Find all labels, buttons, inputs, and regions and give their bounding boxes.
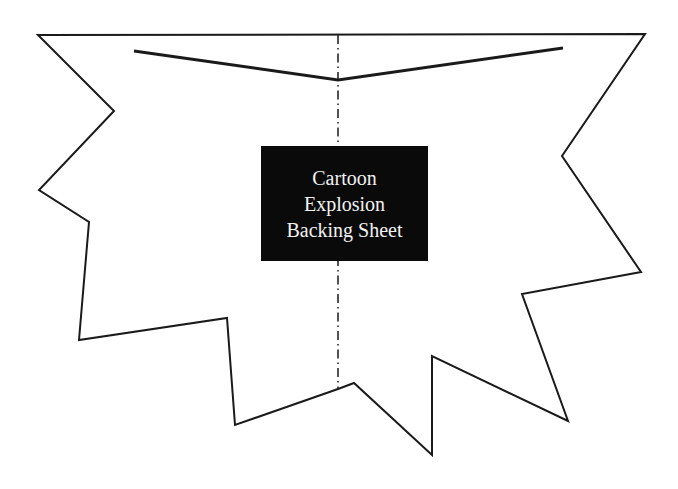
title-line-1: Cartoon — [312, 165, 376, 191]
title-label-box: Cartoon Explosion Backing Sheet — [261, 146, 428, 261]
title-line-2: Explosion — [304, 191, 385, 217]
title-line-3: Backing Sheet — [286, 217, 402, 243]
